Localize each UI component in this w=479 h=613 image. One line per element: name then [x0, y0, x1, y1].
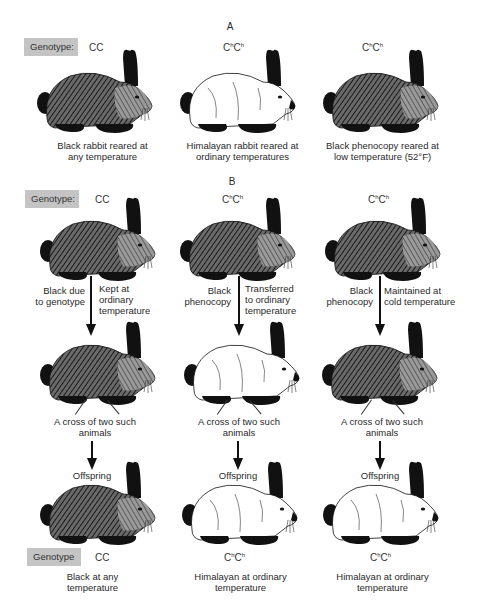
- final-genotype-col1: CC: [95, 552, 109, 563]
- rabbit-b-col2-offspring: [175, 460, 305, 548]
- cross-caption-col2: A cross of two such animals: [184, 416, 294, 438]
- rabbit-b-col2-parent: [173, 196, 303, 284]
- final-genotype-col2: ChCh: [224, 552, 245, 563]
- arrow-b-col2-1: [238, 276, 240, 326]
- caption-a-col3: Black phenocopy reared at low temperatur…: [310, 140, 455, 162]
- cross-caption-col1: A cross of two such animals: [40, 416, 150, 438]
- rabbit-b-col1-offspring: [33, 460, 163, 548]
- note-b-col1-left: Black due to genotype: [25, 285, 85, 307]
- rabbit-black-a: [30, 48, 160, 136]
- arrow-b-col1-1: [90, 276, 92, 326]
- note-b-col2-right: Transferred to ordinary temperature: [245, 283, 320, 316]
- section-b-label: B: [222, 176, 242, 187]
- rabbit-b-col1-parent: [33, 196, 163, 284]
- rabbit-himalayan-a: [173, 48, 303, 136]
- rabbit-b-col1-adult: [33, 320, 163, 408]
- rabbit-b-col3-parent: [318, 196, 448, 284]
- final-caption-col2: Himalayan at ordinary temperature: [183, 571, 298, 593]
- genotype-label-bottom: Genotype: [27, 548, 81, 566]
- note-b-col2-left: Black phenocopy: [170, 285, 231, 307]
- rabbit-phenocopy-a: [316, 48, 446, 136]
- arrow-b-col3-1: [379, 276, 381, 326]
- rabbit-b-col3-adult: [315, 320, 445, 408]
- final-caption-col3: Himalayan at ordinary temperature: [325, 571, 440, 593]
- final-genotype-col3: ChCh: [370, 552, 391, 563]
- rabbit-b-col3-offspring: [316, 460, 446, 548]
- note-b-col3-right: Maintained at cold temperature: [384, 285, 469, 307]
- note-b-col3-left: Black phenocopy: [312, 285, 373, 307]
- note-b-col1-right: Kept at ordinary temperature: [99, 283, 169, 316]
- cross-caption-col3: A cross of two such animals: [327, 416, 437, 438]
- caption-a-col1: Black rabbit reared at any temperature: [30, 140, 175, 162]
- rabbit-b-col2-adult: [177, 320, 307, 408]
- caption-a-col2: Himalayan rabbit reared at ordinary temp…: [170, 140, 315, 162]
- section-a-label: A: [220, 21, 240, 32]
- final-caption-col1: Black at any temperature: [50, 571, 135, 593]
